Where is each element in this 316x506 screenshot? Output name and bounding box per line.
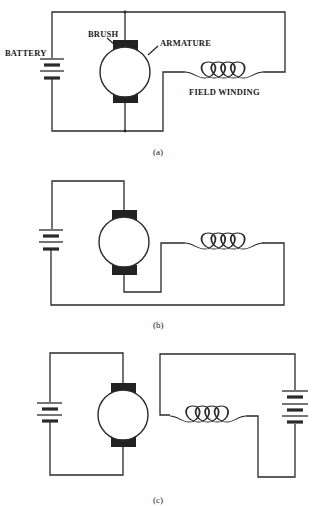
wire-return bbox=[51, 243, 284, 305]
battery-icon bbox=[40, 59, 64, 78]
motor-armature-icon bbox=[100, 40, 150, 103]
wire-field-loop bbox=[160, 354, 295, 415]
panel-b: (b) bbox=[39, 181, 284, 330]
label-brush: BRUSH bbox=[88, 29, 118, 39]
junction-dot bbox=[124, 130, 127, 133]
wire-field-loop-return bbox=[246, 416, 295, 477]
field-winding-icon bbox=[185, 62, 263, 78]
junction-dot bbox=[124, 11, 127, 14]
caption-a: (a) bbox=[153, 147, 163, 157]
field-winding-icon bbox=[170, 406, 246, 422]
motor-armature-icon bbox=[98, 383, 148, 447]
motor-armature-icon bbox=[99, 210, 149, 275]
field-winding-icon bbox=[185, 233, 263, 249]
armature-pointer bbox=[148, 46, 158, 55]
label-field-winding: FIELD WINDING bbox=[189, 87, 260, 97]
field-battery-icon bbox=[282, 391, 308, 422]
battery-icon bbox=[37, 403, 62, 421]
panel-a: BATTERY BRUSH ARMATURE FIELD WINDING (a) bbox=[5, 11, 285, 157]
motor-circuits-diagram: BATTERY BRUSH ARMATURE FIELD WINDING (a)… bbox=[0, 0, 316, 506]
label-armature: ARMATURE bbox=[160, 38, 211, 48]
caption-c: (c) bbox=[153, 495, 163, 505]
caption-b: (b) bbox=[153, 320, 164, 330]
panel-c: (c) bbox=[37, 353, 308, 505]
label-battery: BATTERY bbox=[5, 48, 47, 58]
battery-icon bbox=[39, 230, 63, 249]
